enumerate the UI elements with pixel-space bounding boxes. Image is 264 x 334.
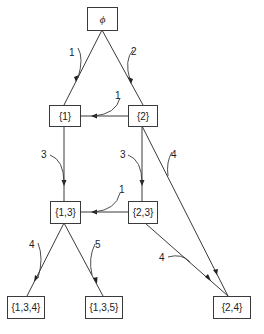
- label-callouts: [38, 48, 190, 278]
- callout-curve: [50, 155, 64, 183]
- subset-lattice-diagram: 1 2 1 3 3 4 1 4 5 4 ϕ {1} {2} {1,3} {2,3…: [0, 0, 264, 334]
- edge-13-to-135: [64, 223, 103, 296]
- arrow-icon: [34, 275, 39, 282]
- node-label: ϕ: [100, 13, 106, 25]
- callout-curve: [78, 48, 81, 78]
- edge-label: 1: [115, 90, 121, 101]
- node-1-3-5: {1,3,5}: [86, 297, 123, 319]
- edge-empty-to-1: [64, 30, 102, 105]
- edge-label: 1: [119, 184, 125, 195]
- edge-label: 1: [69, 47, 75, 58]
- node-2: {2}: [129, 106, 158, 127]
- edge-label: 5: [95, 239, 101, 250]
- node-1-3: {1,3}: [51, 202, 81, 224]
- edge-23-to-24: [145, 223, 228, 296]
- node-label: {1,3,4}: [12, 302, 42, 313]
- node-label: {2,3}: [133, 207, 154, 218]
- arrow-icon: [93, 277, 98, 284]
- edge-label: 2: [131, 46, 137, 57]
- edge-label: 4: [159, 252, 165, 263]
- node-label: {2,4}: [222, 302, 243, 313]
- edge-empty-to-2: [102, 30, 143, 105]
- node-empty-set: ϕ: [88, 8, 118, 31]
- node-1: {1}: [50, 106, 81, 127]
- edge-label: 4: [29, 239, 35, 250]
- node-label: {1,3}: [55, 207, 76, 218]
- edge-label: 4: [171, 149, 177, 160]
- node-label: {2}: [137, 111, 150, 122]
- callout-curve: [168, 256, 190, 262]
- node-label: {1,3,5}: [90, 302, 120, 313]
- node-2-3: {2,3}: [129, 202, 158, 224]
- edge-13-to-134: [27, 223, 64, 296]
- edge-label: 3: [120, 149, 126, 160]
- callout-curve: [128, 155, 142, 183]
- node-1-3-4: {1,3,4}: [8, 297, 45, 319]
- node-label: {1}: [59, 111, 72, 122]
- node-2-4: {2,4}: [214, 297, 251, 319]
- arrow-icon: [205, 274, 211, 281]
- callout-curve: [94, 193, 120, 212]
- edge-labels: 1 2 1 3 3 4 1 4 5 4: [29, 46, 177, 263]
- edge-label: 3: [41, 149, 47, 160]
